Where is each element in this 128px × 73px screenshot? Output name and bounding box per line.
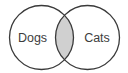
- set-label-cats: Cats: [84, 31, 110, 45]
- set-label-dogs: Dogs: [18, 31, 47, 45]
- venn-diagram: Dogs Cats: [0, 0, 128, 73]
